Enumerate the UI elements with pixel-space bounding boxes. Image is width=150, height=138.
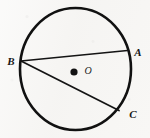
geometry-figure: A B C O [0, 0, 150, 138]
point-label-c: C [129, 109, 136, 120]
point-label-a: A [134, 47, 141, 58]
point-label-b: B [7, 56, 14, 67]
center-point-dot [70, 68, 77, 75]
chord-ba [21, 51, 128, 62]
chord-bc [21, 61, 119, 111]
center-label-o: O [84, 66, 91, 76]
geometry-canvas [0, 0, 150, 138]
